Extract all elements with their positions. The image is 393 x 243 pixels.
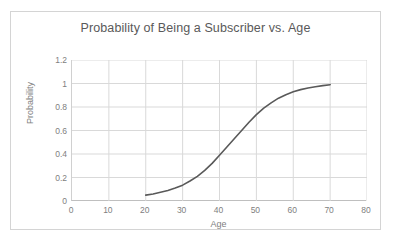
y-tick-label: 0.8 <box>39 102 67 112</box>
x-tick-label: 20 <box>130 205 160 215</box>
x-tick-label: 80 <box>351 205 381 215</box>
chart-frame: Probability of Being a Subscriber vs. Ag… <box>10 11 381 230</box>
x-axis-title: Age <box>71 219 366 229</box>
x-tick-label: 70 <box>314 205 344 215</box>
y-tick-label: 0.2 <box>39 173 67 183</box>
chart-title: Probability of Being a Subscriber vs. Ag… <box>11 21 380 35</box>
x-axis-tick-labels: 01020304050607080 <box>71 205 366 219</box>
x-tick-label: 30 <box>167 205 197 215</box>
x-tick-label: 40 <box>204 205 234 215</box>
y-axis-tick-labels: 00.20.40.60.811.2 <box>39 60 67 201</box>
x-tick-label: 10 <box>93 205 123 215</box>
series-line-probability <box>72 60 367 201</box>
y-tick-label: 1.2 <box>39 55 67 65</box>
x-tick-label: 60 <box>277 205 307 215</box>
plot-area <box>71 60 366 201</box>
x-tick-label: 50 <box>240 205 270 215</box>
x-tick-label: 0 <box>56 205 86 215</box>
y-tick-label: 1 <box>39 79 67 89</box>
y-axis-title: Probability <box>25 68 35 138</box>
y-tick-label: 0.6 <box>39 126 67 136</box>
y-tick-label: 0.4 <box>39 149 67 159</box>
